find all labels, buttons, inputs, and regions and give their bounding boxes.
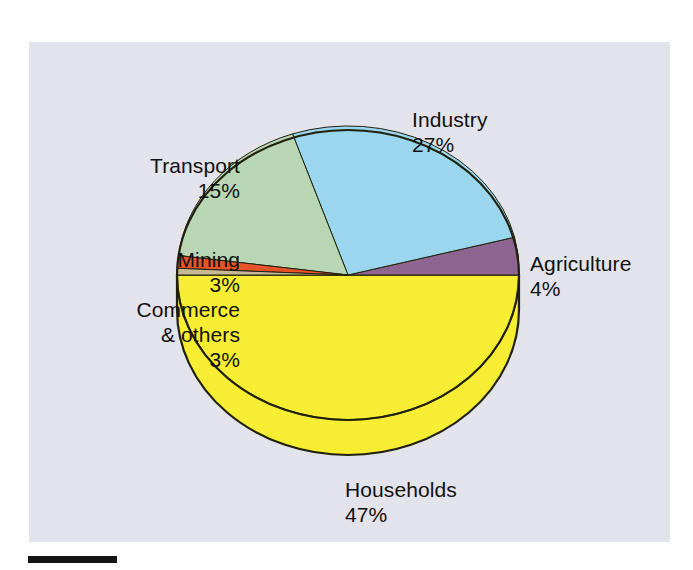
pie-label-households-value: 47% [345, 502, 457, 527]
pie-label-industry: Industry 27% [412, 82, 488, 182]
pie-label-agriculture-name: Agriculture [530, 252, 631, 275]
chart-area: Industry 27% Transport 15% Mining 3% Com… [0, 0, 693, 570]
pie-label-agriculture: Agriculture 4% [530, 226, 631, 326]
pie-label-transport-name: Transport [150, 154, 240, 177]
pie-label-commerce: Commerce & others 3% [40, 272, 240, 397]
pie-label-commerce-value: 3% [40, 347, 240, 372]
pie-label-transport: Transport 15% [88, 128, 240, 228]
pie-label-industry-name: Industry [412, 108, 488, 131]
pie-label-agriculture-value: 4% [530, 276, 631, 301]
pie-label-industry-value: 27% [412, 132, 488, 157]
pie-label-households-name: Households [345, 478, 457, 501]
pie-label-mining-name: Mining [178, 248, 240, 271]
pie-label-commerce-name: Commerce & others [137, 298, 240, 346]
pie-label-transport-value: 15% [88, 178, 240, 203]
caption-rule [28, 556, 117, 563]
pie-label-households: Households 47% [345, 452, 457, 552]
pie-chart-figure: Industry 27% Transport 15% Mining 3% Com… [0, 0, 693, 570]
